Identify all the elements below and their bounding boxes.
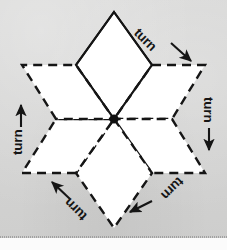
arrow-upper-right <box>171 43 191 61</box>
turn-label-right: turn <box>202 97 216 122</box>
arrow-lower-left <box>52 182 70 199</box>
arrow-lower-right <box>130 201 152 212</box>
rotational-symmetry-diagram <box>0 0 227 250</box>
turn-label-left: turn <box>11 130 25 155</box>
page-footer-strip <box>0 238 227 250</box>
centre-of-rotation-dot <box>109 114 118 123</box>
figure-canvas: turn turn turn turn turn <box>0 0 227 250</box>
